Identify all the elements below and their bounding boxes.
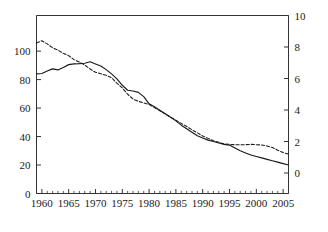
right-tick-label: 6 <box>295 73 301 85</box>
right-tick-label: 8 <box>295 41 301 53</box>
right-axis-tick-labels: 0246810 <box>295 10 307 180</box>
x-tick-label: 1980 <box>138 197 161 209</box>
x-tick-label: 1990 <box>192 197 215 209</box>
left-tick-label: 20 <box>20 159 32 171</box>
chart-canvas: 1960196519701975198019851990199520002005… <box>0 0 328 232</box>
left-tick-label: 80 <box>20 74 32 86</box>
left-axis-tick-labels: 020406080100 <box>14 45 31 199</box>
right-tick-label: 4 <box>295 104 301 116</box>
x-axis-tick-labels: 1960196519701975198019851990199520002005 <box>31 197 295 209</box>
plot-border <box>37 16 289 194</box>
x-axis-ticks <box>37 189 289 194</box>
left-axis-ticks <box>37 51 42 193</box>
series-dashed-series <box>37 41 289 154</box>
left-tick-label: 60 <box>20 102 32 114</box>
left-tick-label: 100 <box>14 45 31 57</box>
data-series-group <box>37 41 289 165</box>
x-tick-label: 2000 <box>245 197 268 209</box>
left-tick-label: 40 <box>20 131 32 143</box>
left-tick-label: 0 <box>25 188 31 200</box>
x-tick-label: 1960 <box>31 197 54 209</box>
right-tick-label: 10 <box>295 10 307 22</box>
right-axis-ticks <box>284 16 289 174</box>
x-tick-label: 1970 <box>84 197 107 209</box>
right-tick-label: 0 <box>295 167 301 179</box>
x-tick-label: 1995 <box>219 197 242 209</box>
plot-frame <box>37 16 289 194</box>
x-tick-label: 1985 <box>165 197 188 209</box>
right-tick-label: 2 <box>295 136 301 148</box>
series-solid-series <box>37 62 289 165</box>
x-tick-label: 2005 <box>272 197 295 209</box>
x-tick-label: 1965 <box>58 197 81 209</box>
line-chart: 1960196519701975198019851990199520002005… <box>0 0 328 232</box>
x-tick-label: 1975 <box>111 197 134 209</box>
